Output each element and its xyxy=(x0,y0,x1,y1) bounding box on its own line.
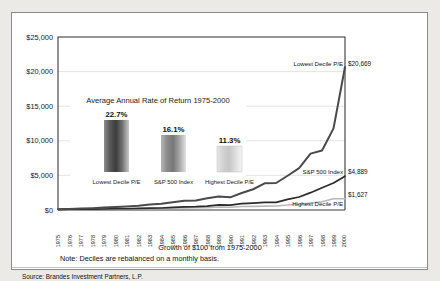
inset-bar-value: 11.3% xyxy=(219,136,241,145)
x-tick-label: 1982 xyxy=(136,235,142,247)
end-label-name-sp500: S&P 500 Index xyxy=(302,168,343,175)
x-tick-label: 1981 xyxy=(124,235,130,247)
x-tick-label: 1977 xyxy=(78,235,84,247)
x-tick-label: 1999 xyxy=(331,235,337,247)
chart-frame: $0 $5,000 $10,000 $15,000 $20,000 $25,00… xyxy=(11,12,428,270)
end-label-name-lowest-decile: Lowest Decile P/E xyxy=(294,60,343,67)
y-axis-labels: $0 $5,000 $10,000 $15,000 $20,000 $25,00… xyxy=(26,33,53,215)
x-tick-label: 1979 xyxy=(101,235,107,247)
inset-bar-lowest-decile xyxy=(104,120,129,172)
chart-subtitle-growth: Growth of $100 from 1975-2000 xyxy=(158,243,261,252)
inset-bar-category: Highest Decile P/E xyxy=(205,179,254,185)
inset-bar-value: 16.1% xyxy=(162,125,184,134)
inset-bar-value: 22.7% xyxy=(105,110,127,119)
x-tick-label: 1976 xyxy=(67,235,73,247)
source-svg: Source: Brandes Investment Partners, L.P… xyxy=(12,269,427,281)
end-label-name-highest-decile: Highest Decile P/E xyxy=(292,200,343,207)
x-tick-label: 1997 xyxy=(308,235,314,247)
chart-canvas: $0 $5,000 $10,000 $15,000 $20,000 $25,00… xyxy=(12,13,427,269)
x-tick-label: 1994 xyxy=(274,235,280,247)
y-tick-10000: $10,000 xyxy=(26,136,53,145)
inset-title: Average Annual Rate of Return 1975-2000 xyxy=(86,96,229,105)
y-tick-25000: $25,000 xyxy=(26,33,53,42)
y-tick-0: $0 xyxy=(45,206,53,215)
inset-bar-chart: Average Annual Rate of Return 1975-2000 … xyxy=(70,93,254,185)
x-tick-label: 1975 xyxy=(55,235,61,247)
inset-bar-category: Lowest Decile P/E xyxy=(93,179,141,185)
inset-bar-highest-decile xyxy=(217,146,242,172)
inset-bar-category: S&P 500 Index xyxy=(154,179,193,185)
chart-note: Note: Deciles are rebalanced on a monthl… xyxy=(60,254,219,263)
x-tick-label: 1983 xyxy=(147,235,153,247)
x-tick-label: 2000 xyxy=(341,235,347,247)
x-tick-label: 1980 xyxy=(113,235,119,247)
chart-source: Source: Brandes Investment Partners, L.P… xyxy=(22,273,143,280)
x-tick-label: 1978 xyxy=(90,235,96,247)
inset-bar-sp500 xyxy=(161,135,186,172)
chart-svg: $0 $5,000 $10,000 $15,000 $20,000 $25,00… xyxy=(12,13,427,269)
x-tick-label: 1996 xyxy=(297,235,303,247)
x-tick-label: 1998 xyxy=(320,235,326,247)
x-tick-label: 1995 xyxy=(285,235,291,247)
end-label-value-lowest-decile: $20,669 xyxy=(348,60,372,67)
y-tick-15000: $15,000 xyxy=(26,102,53,111)
y-tick-5000: $5,000 xyxy=(30,171,53,180)
y-tick-20000: $20,000 xyxy=(26,67,53,76)
end-label-value-highest-decile: $1,627 xyxy=(348,191,368,198)
x-tick-label: 1993 xyxy=(262,235,268,247)
end-label-value-sp500: $4,889 xyxy=(348,168,368,175)
